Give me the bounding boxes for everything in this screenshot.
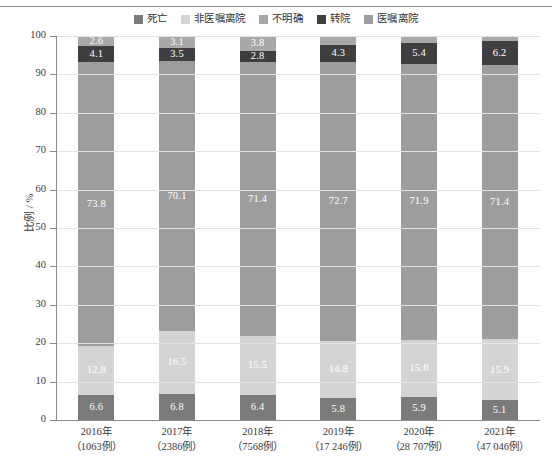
bar-segment[interactable]: 15.0 bbox=[401, 340, 437, 398]
bar-segment-value-label: 3.5 bbox=[170, 49, 184, 60]
bar-segment-value-label: 3.8 bbox=[251, 38, 265, 49]
chart-figure: 死亡非医嘱离院不明确转院医嘱离院 比例 / % 1009080706050403… bbox=[0, 0, 552, 462]
bar-segment-value-label: 16.5 bbox=[167, 357, 186, 368]
y-axis-tick-label: 40 bbox=[36, 259, 47, 270]
bar-segment[interactable]: 6.8 bbox=[159, 394, 195, 420]
x-axis-label-count: （47 046例） bbox=[459, 439, 540, 454]
y-axis-title: 比例 / % bbox=[21, 173, 36, 253]
bar-segment[interactable]: 71.9 bbox=[401, 64, 437, 340]
bar-segment-value-label: 5.1 bbox=[493, 405, 507, 416]
gridline bbox=[57, 343, 540, 344]
gridline bbox=[57, 113, 540, 114]
bar-segment[interactable]: 73.8 bbox=[78, 62, 114, 345]
bar-segment-value-label: 2.6 bbox=[89, 36, 103, 47]
bar-segment[interactable]: 5.1 bbox=[482, 400, 518, 420]
x-axis-label-count: （7568例） bbox=[217, 439, 298, 454]
y-axis-tick-label: 30 bbox=[36, 298, 47, 309]
y-axis-tick-label: 90 bbox=[36, 67, 47, 78]
bar-segment[interactable]: 16.5 bbox=[159, 331, 195, 394]
bar-segment-value-label: 5.4 bbox=[412, 48, 426, 59]
bar-segment-value-label: 12.8 bbox=[87, 365, 106, 376]
y-axis-tick-label: 70 bbox=[36, 144, 47, 155]
x-axis-label-year: 2021年 bbox=[484, 426, 515, 437]
bar-segment[interactable]: 4.3 bbox=[320, 45, 356, 62]
gridline bbox=[57, 382, 540, 383]
bar-segment[interactable]: 12.8 bbox=[78, 346, 114, 395]
bar-segment[interactable]: 72.7 bbox=[320, 62, 356, 341]
bar-segment[interactable]: 70.1 bbox=[159, 61, 195, 330]
x-axis-label-count: （17 246例） bbox=[298, 439, 379, 454]
bar-segment[interactable]: 71.4 bbox=[240, 62, 276, 336]
x-axis-label-count: （28 707例） bbox=[379, 439, 460, 454]
bar-segment[interactable]: 5.4 bbox=[401, 43, 437, 64]
x-axis-label-count: （1063例） bbox=[56, 439, 137, 454]
bar-segment[interactable]: 2.3 bbox=[320, 36, 356, 45]
y-axis-tick-label: 100 bbox=[30, 29, 46, 40]
bar-segment-value-label: 3.1 bbox=[170, 37, 184, 48]
bar-segment[interactable]: 2.6 bbox=[78, 36, 114, 46]
bar-segment[interactable]: 3.1 bbox=[159, 36, 195, 48]
bar-segment-value-label: 2.8 bbox=[251, 51, 265, 62]
x-axis-label-year: 2018年 bbox=[242, 426, 273, 437]
gridline bbox=[57, 151, 540, 152]
bar-segment-value-label: 6.8 bbox=[170, 402, 184, 413]
bar-segment-value-label: 5.9 bbox=[412, 403, 426, 414]
gridline bbox=[57, 305, 540, 306]
gridline bbox=[57, 74, 540, 75]
x-axis-tick-label: 2020年（28 707例） bbox=[379, 424, 460, 454]
y-axis-tick-label: 10 bbox=[36, 375, 47, 386]
x-axis-label-count: （2386例） bbox=[137, 439, 218, 454]
x-axis-label-year: 2017年 bbox=[161, 426, 192, 437]
bar-segment-value-label: 71.9 bbox=[409, 196, 428, 207]
x-axis-tick-label: 2017年（2386例） bbox=[137, 424, 218, 454]
bar-segment-value-label: 71.4 bbox=[490, 197, 509, 208]
x-axis-tick-label: 2021年（47 046例） bbox=[459, 424, 540, 454]
plot-area: 比例 / % 1009080706050403020100 6.612.873.… bbox=[0, 0, 552, 462]
x-axis-labels: 2016年（1063例）2017年（2386例）2018年（7568例）2019… bbox=[56, 424, 540, 462]
x-axis-tick-label: 2018年（7568例） bbox=[217, 424, 298, 454]
gridline bbox=[57, 266, 540, 267]
bar-segment-value-label: 15.9 bbox=[490, 365, 509, 376]
bar-segment[interactable]: 4.1 bbox=[78, 46, 114, 62]
bar-segment[interactable]: 5.9 bbox=[401, 397, 437, 420]
bar-segment[interactable]: 71.4 bbox=[482, 65, 518, 339]
x-axis-label-year: 2020年 bbox=[403, 426, 434, 437]
x-axis-label-year: 2019年 bbox=[323, 426, 354, 437]
x-axis-label-year: 2016年 bbox=[81, 426, 112, 437]
bar-segment[interactable]: 6.2 bbox=[482, 41, 518, 65]
bar-segment[interactable]: 3.8 bbox=[240, 36, 276, 51]
bar-segment-value-label: 15.5 bbox=[248, 360, 267, 371]
bar-segment-value-label: 5.8 bbox=[331, 404, 345, 415]
gridline bbox=[57, 228, 540, 229]
y-axis-tick-label: 60 bbox=[36, 183, 47, 194]
y-axis-tick-label: 50 bbox=[36, 221, 47, 232]
bar-segment[interactable]: 1.7 bbox=[401, 36, 437, 43]
gridline bbox=[57, 36, 540, 37]
bar-segment[interactable]: 6.4 bbox=[240, 395, 276, 420]
bar-segment[interactable]: 3.5 bbox=[159, 48, 195, 61]
x-axis-tick-label: 2016年（1063例） bbox=[56, 424, 137, 454]
bar-segment[interactable]: 15.5 bbox=[240, 336, 276, 396]
bar-segment-value-label: 15.0 bbox=[409, 363, 428, 374]
bar-segment-value-label: 4.3 bbox=[331, 48, 345, 59]
bar-segment[interactable]: 5.8 bbox=[320, 398, 356, 420]
y-axis-tick-label: 20 bbox=[36, 336, 47, 347]
bar-segment-value-label: 72.7 bbox=[329, 196, 348, 207]
gridline bbox=[57, 190, 540, 191]
bar-segment[interactable]: 6.6 bbox=[78, 395, 114, 420]
bar-segment-value-label: 6.4 bbox=[251, 402, 265, 413]
bar-segment-value-label: 6.2 bbox=[493, 48, 507, 59]
bar-segment[interactable]: 15.9 bbox=[482, 339, 518, 400]
y-axis-tick-label: 0 bbox=[41, 413, 46, 424]
bar-segment-value-label: 14.8 bbox=[329, 364, 348, 375]
bar-segment[interactable]: 14.8 bbox=[320, 341, 356, 398]
y-axis-tick-label: 80 bbox=[36, 106, 47, 117]
bar-segment[interactable]: 2.8 bbox=[240, 51, 276, 62]
bar-segment-value-label: 6.6 bbox=[89, 402, 103, 413]
bar-segment-value-label: 73.8 bbox=[87, 199, 106, 210]
bar-segment-value-label: 70.1 bbox=[167, 191, 186, 202]
x-axis-line bbox=[56, 420, 540, 421]
bar-segment-value-label: 4.1 bbox=[89, 49, 103, 60]
x-axis-tick-label: 2019年（17 246例） bbox=[298, 424, 379, 454]
bar-segment-value-label: 71.4 bbox=[248, 194, 267, 205]
